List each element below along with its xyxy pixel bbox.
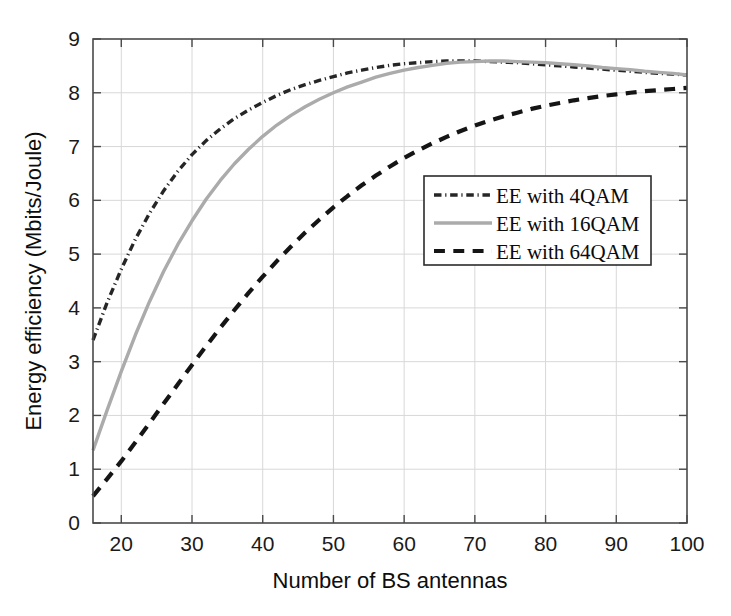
x-tick-labels: 2030405060708090100 xyxy=(110,532,705,555)
x-tick-label: 50 xyxy=(322,532,345,555)
y-tick-label: 8 xyxy=(68,81,80,104)
energy-efficiency-line-chart: 2030405060708090100 0123456789 Number of… xyxy=(0,0,731,616)
y-tick-label: 6 xyxy=(68,188,80,211)
legend-label-2: EE with 64QAM xyxy=(496,240,640,264)
y-tick-label: 2 xyxy=(68,403,80,426)
y-axis-title: Energy efficiency (Mbits/Joule) xyxy=(21,131,46,430)
x-tick-label: 80 xyxy=(534,532,557,555)
y-tick-label: 5 xyxy=(68,242,80,265)
x-tick-label: 100 xyxy=(669,532,704,555)
legend-label-0: EE with 4QAM xyxy=(496,184,629,208)
y-tick-label: 4 xyxy=(68,296,80,319)
y-tick-label: 0 xyxy=(68,511,80,534)
y-tick-label: 3 xyxy=(68,350,80,373)
x-tick-label: 20 xyxy=(110,532,133,555)
y-tick-label: 1 xyxy=(68,457,80,480)
x-tick-label: 60 xyxy=(392,532,415,555)
x-tick-label: 40 xyxy=(251,532,274,555)
y-tick-label: 9 xyxy=(68,27,80,50)
x-tick-label: 90 xyxy=(605,532,628,555)
x-tick-label: 70 xyxy=(463,532,486,555)
x-tick-label: 30 xyxy=(180,532,203,555)
x-axis-title: Number of BS antennas xyxy=(273,568,508,593)
y-tick-label: 7 xyxy=(68,135,80,158)
chart-figure: 2030405060708090100 0123456789 Number of… xyxy=(0,0,731,616)
chart-legend[interactable]: EE with 4QAMEE with 16QAMEE with 64QAM xyxy=(424,176,651,265)
legend-label-1: EE with 16QAM xyxy=(496,212,640,236)
